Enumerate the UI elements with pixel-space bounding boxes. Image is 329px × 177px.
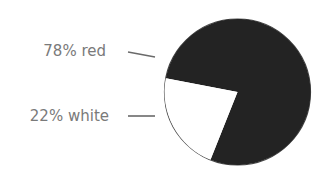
pie-chart: 78% red 22% white bbox=[0, 0, 329, 177]
leader-line-red bbox=[128, 52, 155, 57]
label-white: 22% white bbox=[30, 107, 109, 125]
label-red: 78% red bbox=[43, 42, 106, 60]
